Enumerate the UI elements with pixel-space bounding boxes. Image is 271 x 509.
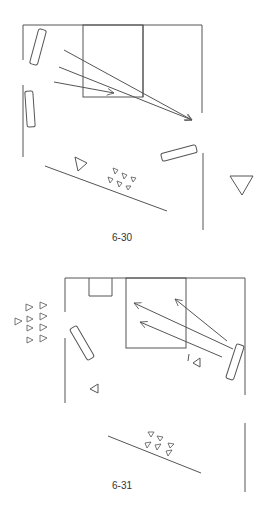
figure-6-31	[15, 278, 245, 492]
light-fixture-1	[70, 325, 95, 360]
performer-triangle	[75, 157, 87, 171]
figure-6-30	[23, 25, 253, 230]
inner-room	[83, 25, 143, 97]
figure-caption-6-31: 6-31	[112, 480, 132, 491]
light-fixture-2	[226, 344, 245, 381]
performer-triangle	[193, 358, 200, 367]
audience-cluster-left	[15, 302, 47, 343]
arrow-1	[175, 299, 227, 341]
arrow-3	[54, 82, 114, 93]
wall-top	[23, 25, 202, 113]
arrow-2	[59, 67, 192, 120]
performer-triangle-2	[90, 384, 98, 393]
performer-mark	[188, 354, 189, 361]
floorplan-diagrams	[0, 0, 271, 509]
figure-caption-6-30: 6-30	[112, 232, 132, 243]
audience-cluster-1	[108, 168, 136, 190]
audience-triangle-large	[230, 176, 253, 195]
light-fixture-3	[161, 144, 198, 161]
light-fixture-2	[25, 91, 35, 127]
light-fixture-1	[29, 29, 46, 66]
stage-edge	[45, 166, 167, 211]
stage-edge	[108, 436, 201, 473]
small-room	[89, 278, 112, 296]
